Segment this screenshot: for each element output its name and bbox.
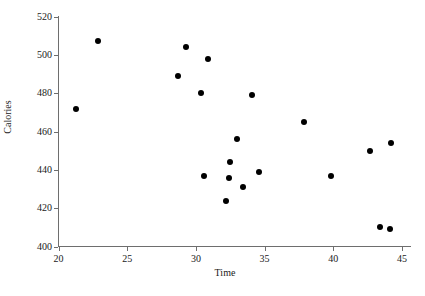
data-point bbox=[175, 73, 181, 79]
data-point bbox=[367, 148, 373, 154]
data-point bbox=[240, 184, 246, 190]
data-point bbox=[183, 44, 189, 50]
data-point bbox=[226, 175, 232, 181]
data-point bbox=[387, 226, 393, 232]
data-point bbox=[223, 198, 229, 204]
data-points-layer bbox=[0, 0, 425, 296]
data-point bbox=[227, 159, 233, 165]
y-axis-title: Calories bbox=[3, 87, 13, 147]
data-point bbox=[249, 92, 255, 98]
data-point bbox=[201, 173, 207, 179]
data-point bbox=[256, 169, 262, 175]
data-point bbox=[328, 173, 334, 179]
data-point bbox=[198, 90, 204, 96]
data-point bbox=[377, 224, 383, 230]
data-point bbox=[95, 38, 101, 44]
x-axis-title: Time bbox=[195, 268, 255, 278]
data-point bbox=[205, 56, 211, 62]
data-point bbox=[301, 119, 307, 125]
data-point bbox=[73, 106, 79, 112]
data-point bbox=[234, 136, 240, 142]
scatter-plot-figure: 400420440460480500520 202530354045 Calor… bbox=[0, 0, 425, 296]
data-point bbox=[388, 140, 394, 146]
